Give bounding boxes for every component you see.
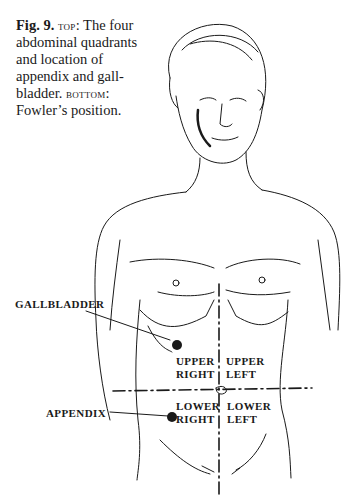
appendix-leader [110,412,168,416]
quadrant-lower-right: LOWER RIGHT [176,400,220,425]
quadrant-upper-right: UPPER RIGHT [176,355,215,380]
gallbladder-label: GALLBLADDER [15,298,104,311]
quadrant-upper-left: UPPER LEFT [226,355,265,380]
horizontal-midline [113,388,312,391]
appendix-label: APPENDIX [46,407,106,420]
gallbladder-marker [172,340,182,350]
gallbladder-leader [86,311,170,340]
quadrant-lower-left: LOWER LEFT [227,400,271,425]
